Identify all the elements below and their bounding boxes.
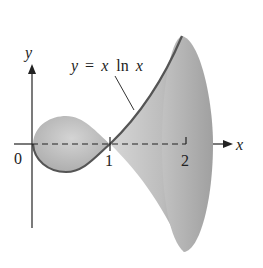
curve-label: y = x ln x (69, 57, 143, 75)
x-axis-arrow-icon (223, 140, 233, 148)
x-axis-label: x (235, 136, 243, 153)
y-axis-arrow-icon (28, 64, 36, 74)
surface-diagram: y x 0 1 2 y = x ln x (0, 0, 263, 268)
y-axis-label: y (23, 44, 33, 62)
tick-label-2: 2 (181, 152, 189, 169)
label-leader-line (115, 76, 134, 110)
tick-label-0: 0 (14, 150, 22, 167)
surface-end-cap (162, 36, 213, 252)
tick-label-1: 1 (105, 152, 113, 169)
